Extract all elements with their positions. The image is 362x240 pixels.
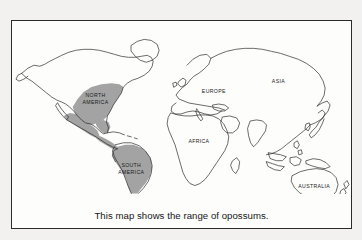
label-africa: AFRICA [188, 138, 209, 144]
outline-greenland [131, 39, 159, 62]
world-map-svg: NORTH AMERICA SOUTH AMERICA EUROPE ASIA … [12, 21, 351, 194]
outline-asia-north [211, 48, 325, 106]
outline-caribbean-islands [107, 132, 137, 139]
label-north-america-line1: NORTH [86, 92, 106, 98]
outline-arabia [221, 116, 240, 133]
outline-japan [309, 110, 325, 138]
outline-british-isles [173, 78, 186, 87]
outline-new-zealand [340, 181, 349, 194]
map-caption: This map shows the range of opossums. [12, 210, 351, 221]
label-australia: AUSTRALIA [298, 183, 330, 189]
range-central-america [96, 135, 119, 151]
outline-philippines [294, 141, 302, 155]
label-south-america-line1: SOUTH [121, 162, 141, 168]
outline-asia-east-coast [266, 125, 310, 155]
outline-new-guinea [306, 159, 330, 169]
outline-india [248, 120, 267, 147]
outline-indonesia [266, 153, 301, 171]
outline-korea [305, 123, 310, 131]
label-asia: ASIA [272, 78, 285, 84]
label-europe: EUROPE [202, 88, 226, 94]
outline-alaska [16, 73, 28, 81]
outline-australia [291, 169, 338, 194]
label-south-america-line2: AMERICA [118, 169, 144, 175]
world-map: NORTH AMERICA SOUTH AMERICA EUROPE ASIA … [12, 21, 351, 194]
outline-madagascar [231, 158, 240, 174]
outline-africa [167, 113, 229, 186]
map-figure: NORTH AMERICA SOUTH AMERICA EUROPE ASIA … [11, 20, 352, 229]
outline-europe [176, 54, 225, 110]
label-north-america-line2: AMERICA [83, 99, 109, 105]
